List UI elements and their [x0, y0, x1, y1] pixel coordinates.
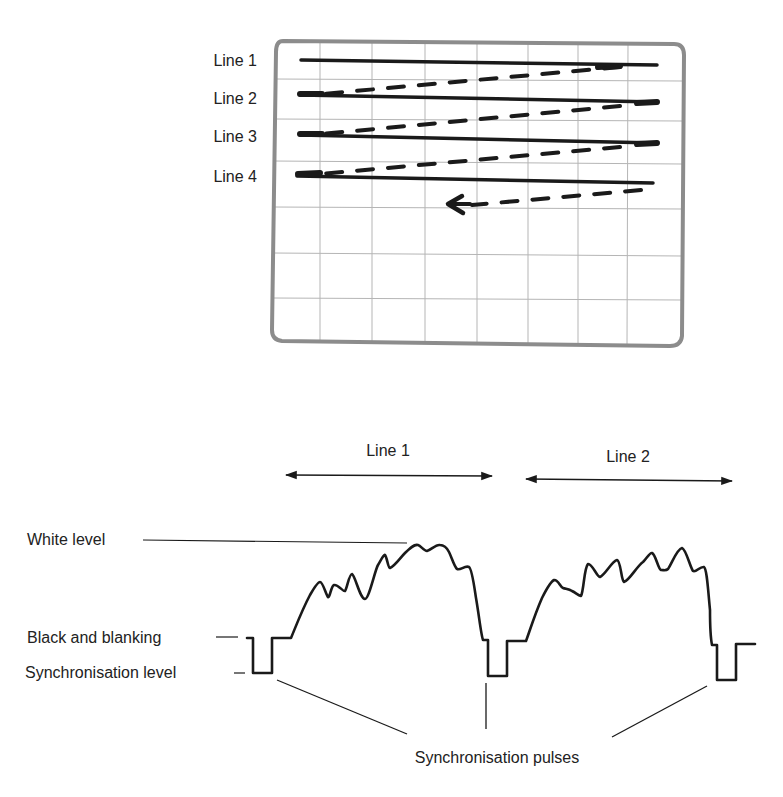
scan-line-3 — [300, 135, 657, 143]
video-signal-trace — [247, 545, 755, 680]
scan-line-labels: Line 1 Line 2 Line 3 Line 4 — [213, 52, 257, 185]
scan-line-4 — [297, 176, 653, 183]
line-1-span-label: Line 1 — [366, 442, 410, 459]
screen-border — [272, 41, 684, 346]
sync-level-label: Synchronisation level — [25, 664, 176, 681]
retrace-vertical-return — [472, 190, 641, 205]
crt-screen: Line 1 Line 2 Line 3 Line 4 — [213, 41, 684, 346]
sync-pulse-pointers — [277, 680, 707, 737]
line-1-span-arrow — [286, 475, 492, 476]
video-waveform-diagram: Line 1 Line 2 White level Black and blan… — [25, 442, 755, 766]
sync-pulses-label: Synchronisation pulses — [415, 749, 580, 766]
scan-line-label: Line 3 — [213, 128, 257, 145]
line-2-span-label: Line 2 — [606, 448, 650, 465]
screen-grid — [273, 42, 682, 345]
white-level-label: White level — [27, 531, 105, 548]
line-2-span-arrow — [526, 479, 732, 481]
scan-line-2 — [300, 95, 657, 102]
black-blanking-label: Black and blanking — [27, 629, 161, 646]
retrace-3-4 — [320, 147, 620, 174]
scan-line-label: Line 1 — [213, 52, 257, 69]
tv-scanning-diagram: Line 1 Line 2 Line 3 Line 4 Line 1 Line … — [0, 0, 783, 797]
scan-line-label: Line 4 — [213, 168, 257, 185]
scan-line-label: Line 2 — [213, 90, 257, 107]
white-level-leader — [143, 540, 407, 543]
